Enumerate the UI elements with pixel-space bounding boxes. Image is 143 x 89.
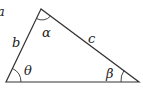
side-label-b: b xyxy=(12,36,20,49)
side-label-a-bottom: a xyxy=(70,86,78,89)
side-label-top-left-partial: a xyxy=(0,5,5,18)
angle-label-alpha: α xyxy=(42,26,51,39)
angle-label-beta: β xyxy=(106,67,114,80)
angle-label-theta: θ xyxy=(24,64,32,77)
angle-arc-theta xyxy=(13,69,22,83)
side-label-c: c xyxy=(88,32,95,45)
angle-arc-beta xyxy=(121,71,124,83)
angle-arc-alpha xyxy=(37,16,51,20)
triangle-diagram xyxy=(0,0,143,89)
